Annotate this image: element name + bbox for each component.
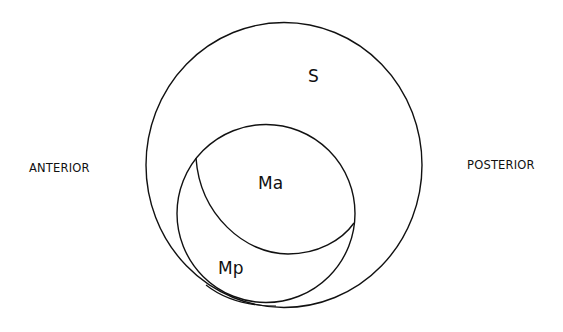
- region-s-label: S: [308, 66, 319, 86]
- posterior-label: POSTERIOR: [467, 158, 535, 172]
- circle-mp: [177, 125, 355, 303]
- outer-circle-s: [146, 23, 422, 308]
- anterior-label: ANTERIOR: [29, 161, 90, 175]
- region-mp-label: Mp: [218, 258, 243, 278]
- region-ma-label: Ma: [258, 173, 283, 193]
